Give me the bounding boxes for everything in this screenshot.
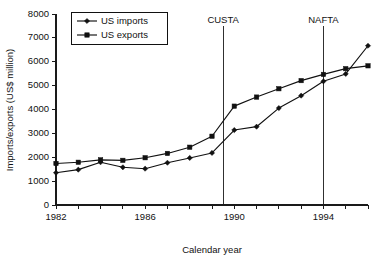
legend-label: US exports bbox=[101, 29, 148, 40]
y-tick-label: 2000 bbox=[28, 151, 49, 162]
x-axis-ticks bbox=[56, 205, 368, 209]
y-tick-label: 5000 bbox=[28, 79, 49, 90]
data-point bbox=[143, 156, 147, 160]
line-chart: 010002000300040005000600070008000 198219… bbox=[0, 0, 373, 260]
data-point bbox=[76, 160, 80, 164]
legend: US importsUS exports bbox=[71, 12, 167, 44]
x-tick-label: 1982 bbox=[45, 211, 66, 222]
x-tick-label: 1994 bbox=[313, 211, 334, 222]
data-point bbox=[210, 134, 214, 138]
y-tick-label: 7000 bbox=[28, 31, 49, 42]
y-tick-label: 0 bbox=[44, 199, 49, 210]
annotation-label-custa: CUSTA bbox=[207, 14, 239, 25]
data-point bbox=[299, 78, 303, 82]
data-point bbox=[344, 66, 348, 70]
data-point bbox=[54, 161, 58, 165]
legend-marker-square-icon bbox=[85, 33, 89, 37]
legend-label: US imports bbox=[101, 15, 148, 26]
data-point bbox=[188, 145, 192, 149]
data-point bbox=[187, 155, 192, 160]
annotation-labels: CUSTANAFTA bbox=[207, 14, 339, 25]
y-tick-label: 8000 bbox=[28, 8, 49, 19]
data-point bbox=[165, 151, 169, 155]
x-tick-label: 1990 bbox=[224, 211, 245, 222]
data-point bbox=[121, 158, 125, 162]
x-tick-label: 1986 bbox=[135, 211, 156, 222]
y-tick-label: 6000 bbox=[28, 55, 49, 66]
data-point bbox=[120, 165, 125, 170]
x-axis-title: Calendar year bbox=[182, 244, 242, 255]
y-tick-label: 1000 bbox=[28, 175, 49, 186]
y-tick-label: 3000 bbox=[28, 127, 49, 138]
chart-container: 010002000300040005000600070008000 198219… bbox=[0, 0, 373, 260]
y-axis-title: Imports/exports (US$ million) bbox=[4, 49, 15, 171]
y-tick-label: 4000 bbox=[28, 103, 49, 114]
data-point bbox=[76, 167, 81, 172]
data-point bbox=[232, 104, 236, 108]
data-point bbox=[366, 64, 370, 68]
annotation-label-nafta: NAFTA bbox=[308, 14, 339, 25]
data-point bbox=[321, 72, 325, 76]
annotation-lines bbox=[223, 26, 323, 205]
data-point bbox=[254, 95, 258, 99]
data-point bbox=[143, 166, 148, 171]
data-point bbox=[98, 158, 102, 162]
x-axis-tick-labels: 1982198619901994 bbox=[45, 211, 334, 222]
series-line-1 bbox=[56, 66, 368, 164]
y-axis-ticks bbox=[52, 14, 56, 205]
data-point bbox=[277, 87, 281, 91]
y-axis-tick-labels: 010002000300040005000600070008000 bbox=[28, 8, 49, 210]
data-point bbox=[53, 170, 58, 175]
data-point bbox=[165, 160, 170, 165]
